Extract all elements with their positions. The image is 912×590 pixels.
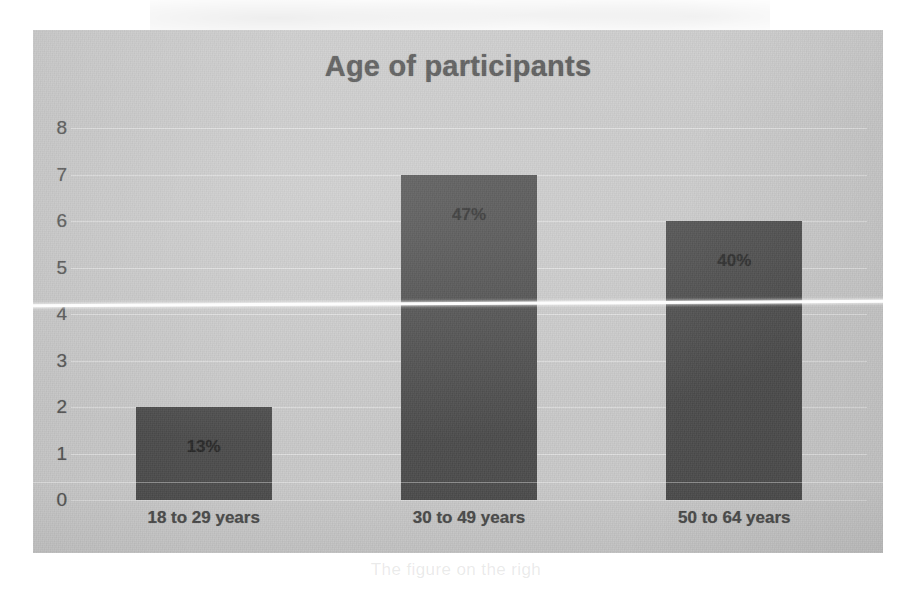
y-tick-label-1: 1 bbox=[56, 443, 67, 465]
x-axis-label: 30 to 49 years bbox=[336, 508, 601, 528]
y-tick-label-0: 0 bbox=[56, 489, 67, 511]
y-tick-label-8: 8 bbox=[56, 117, 67, 139]
y-tick-label-3: 3 bbox=[56, 350, 67, 372]
bar-data-label: 13% bbox=[136, 437, 272, 457]
bar: 40% bbox=[666, 221, 802, 500]
x-axis-label: 18 to 29 years bbox=[71, 508, 336, 528]
scanned-page: Age of participants 012345678 13%47%40% … bbox=[0, 0, 912, 590]
bar-data-label: 40% bbox=[666, 251, 802, 271]
bars-container: 13%47%40% bbox=[71, 128, 867, 500]
y-tick-label-2: 2 bbox=[56, 396, 67, 418]
y-tick-label-6: 6 bbox=[56, 210, 67, 232]
chart-title: Age of participants bbox=[33, 50, 883, 83]
y-axis: 012345678 bbox=[33, 128, 67, 500]
y-tick-label-4: 4 bbox=[56, 303, 67, 325]
chart-figure: Age of participants 012345678 13%47%40% … bbox=[33, 30, 883, 553]
x-axis-label: 50 to 64 years bbox=[602, 508, 867, 528]
bar: 47% bbox=[401, 175, 537, 501]
gridline-0 bbox=[71, 500, 867, 501]
bar-data-label: 47% bbox=[401, 205, 537, 225]
y-tick-label-7: 7 bbox=[56, 164, 67, 186]
bleed-through-text: The figure on the righ bbox=[0, 560, 912, 580]
bar: 13% bbox=[136, 407, 272, 500]
scan-smudge bbox=[150, 0, 770, 30]
x-axis: 18 to 29 years30 to 49 years50 to 64 yea… bbox=[71, 508, 867, 542]
y-tick-label-5: 5 bbox=[56, 257, 67, 279]
